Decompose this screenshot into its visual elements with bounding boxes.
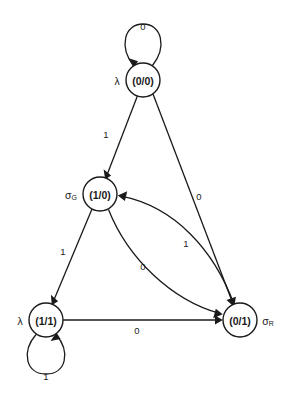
- edge-top-to-g-path: [107, 97, 138, 177]
- node-sigma-r-01-output: (0/1): [229, 315, 251, 327]
- edge-r-to-g-path: [122, 196, 235, 304]
- node-sigma-g-10-state-name: σG: [65, 189, 77, 201]
- transition-self-loop-lambda11: 1: [27, 333, 64, 382]
- transition-sigmaR-to-sigmaG: 1: [118, 191, 234, 304]
- node-lambda-00[interactable]: (0/0) λ: [114, 63, 160, 97]
- edge-g-to-lambda11-path: [53, 209, 92, 302]
- edge-lambda11-to-r-arrowhead: [215, 315, 223, 324]
- node-sigma-r-01-state-name: σR: [262, 315, 274, 327]
- node-lambda-11-state-name: λ: [17, 315, 23, 327]
- node-lambda-11-output: (1/1): [35, 315, 57, 327]
- edge-label-lambda11-to-r: 0: [134, 325, 139, 336]
- state-diagram-canvas: 0 1 0 1 0 1: [0, 0, 289, 397]
- node-sigma-g-10-subscript: G: [72, 193, 77, 200]
- edge-label-self-loop-bottom: 1: [43, 371, 48, 382]
- transition-sigmaG-to-lambda11: 1: [51, 209, 92, 305]
- edge-label-self-loop-top: 0: [140, 21, 145, 32]
- node-lambda-00-state-name: λ: [114, 75, 120, 87]
- node-sigma-g-10-output: (1/0): [89, 189, 111, 201]
- edge-label-g-to-r: 0: [140, 261, 145, 272]
- edge-label-g-to-lambda11: 1: [60, 246, 65, 257]
- node-sigma-r-01[interactable]: (0/1) σR: [223, 303, 274, 337]
- transition-lambda00-to-sigmaG: 1: [103, 97, 137, 180]
- transition-self-loop-lambda00: 0: [125, 21, 161, 68]
- state-diagram-svg: 0 1 0 1 0 1: [0, 0, 289, 397]
- node-lambda-00-output: (0/0): [132, 75, 154, 87]
- edge-label-top-to-r: 0: [196, 191, 201, 202]
- node-lambda-11[interactable]: (1/1) λ: [17, 303, 63, 337]
- transition-lambda00-to-sigmaR: 0: [153, 94, 236, 307]
- edge-top-to-r-path: [153, 94, 233, 304]
- node-sigma-r-01-subscript: R: [269, 319, 274, 326]
- edge-label-top-to-g: 1: [103, 129, 108, 140]
- transition-lambda11-to-sigmaR: 0: [63, 315, 223, 335]
- edge-label-r-to-g: 1: [183, 238, 188, 249]
- transition-sigmaG-to-sigmaR: 0: [109, 210, 223, 319]
- self-loop-bottom-path: [27, 335, 64, 375]
- edge-g-to-r-arrowhead: [213, 309, 223, 319]
- node-sigma-g-10[interactable]: (1/0) σG: [65, 177, 117, 211]
- edge-r-to-g-arrowhead: [118, 191, 127, 201]
